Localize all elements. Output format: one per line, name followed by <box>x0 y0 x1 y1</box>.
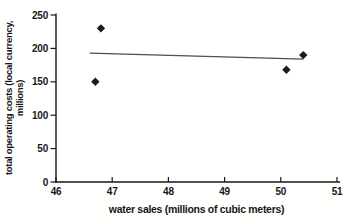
x-tick-label: 47 <box>107 186 118 197</box>
y-tick-label: 0 <box>43 177 49 188</box>
regression-scatter-figure: 050100150200250464748495051water sales (… <box>0 0 362 222</box>
data-point-marker <box>91 78 99 86</box>
data-point-marker <box>282 66 290 74</box>
y-tick-label: 50 <box>37 143 48 154</box>
data-point-marker <box>97 24 105 32</box>
x-tick-label: 48 <box>163 186 174 197</box>
data-point-marker <box>299 51 307 59</box>
x-axis-title: water sales (millions of cubic meters) <box>108 203 284 215</box>
trend-line <box>90 53 304 59</box>
x-tick-label: 50 <box>275 186 286 197</box>
y-tick-label: 250 <box>32 10 49 21</box>
y-tick-label: 150 <box>32 76 49 87</box>
y-axis-title: total operating costs (local currency,mi… <box>3 21 25 175</box>
scatter-chart: 050100150200250464748495051water sales (… <box>0 0 362 222</box>
x-tick-label: 46 <box>51 186 62 197</box>
x-tick-label: 51 <box>332 186 343 197</box>
y-tick-label: 200 <box>32 43 49 54</box>
y-tick-label: 100 <box>32 110 49 121</box>
x-tick-label: 49 <box>219 186 230 197</box>
